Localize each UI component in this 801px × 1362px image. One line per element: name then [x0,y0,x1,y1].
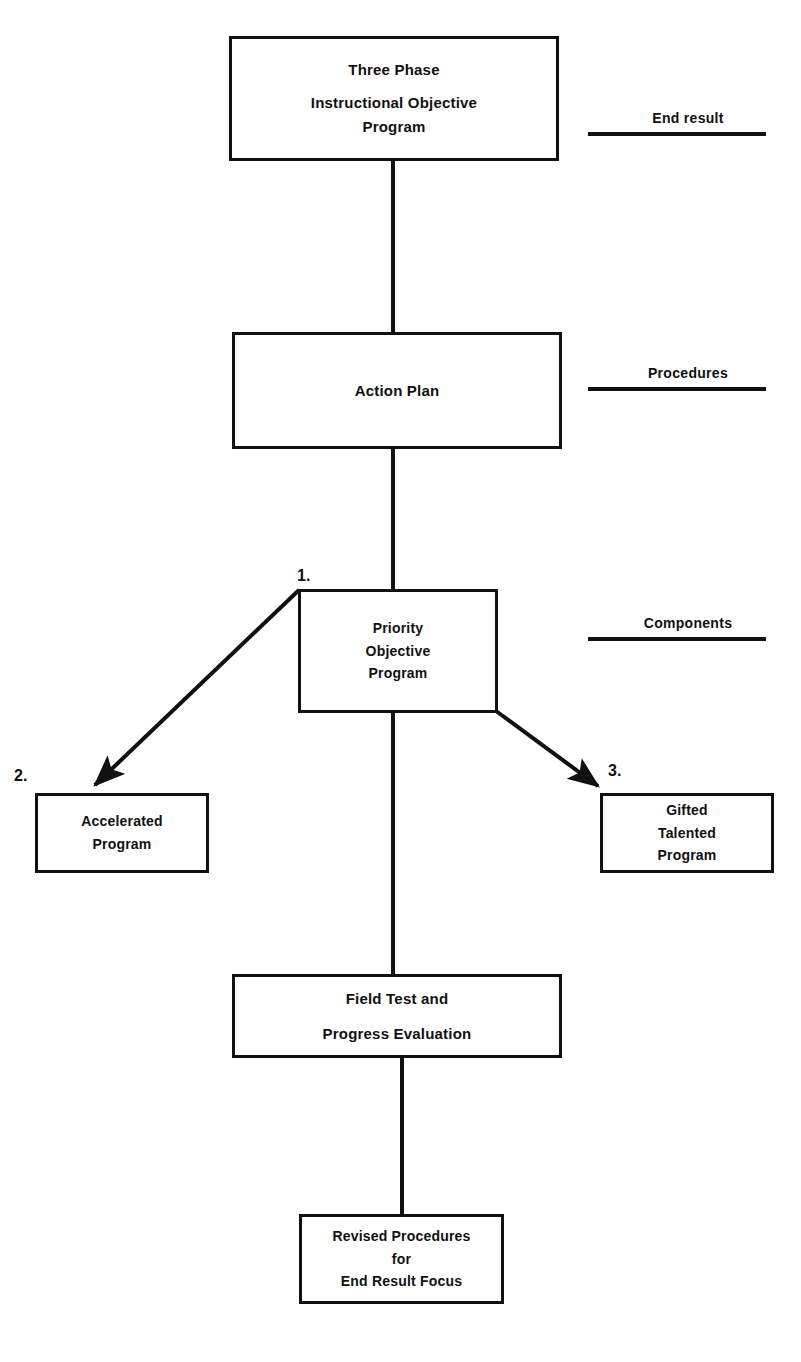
node-gifted-talented-program[interactable]: Gifted Talented Program [600,793,774,873]
node-label-line: Instructional Objective [311,91,477,115]
connector-priority-to-accelerated [95,590,299,785]
node-label-line: Objective [366,640,431,663]
node-three-phase-instructional-objective-program[interactable]: Three Phase Instructional Objective Prog… [229,36,559,161]
connector-priority-to-gifted [496,711,598,786]
diagram-canvas: Three Phase Instructional Objective Prog… [0,0,801,1362]
node-label-line: Program [93,833,152,856]
side-label-procedures: Procedures [588,365,788,381]
node-label-line: Progress Evaluation [323,1022,472,1046]
node-label-line: Talented [658,822,716,845]
step-number-1: 1. [297,568,310,584]
side-label-end-result: End result [588,110,788,126]
node-priority-objective-program[interactable]: Priority Objective Program [298,589,498,713]
node-label-line: End Result Focus [341,1270,462,1292]
step-number-3: 3. [608,763,621,779]
node-label-line: Accelerated [81,810,163,833]
side-label-components: Components [588,615,788,631]
node-label-line: for [392,1248,411,1270]
node-label-line: Gifted [666,799,708,822]
node-label-line: Program [369,662,428,685]
side-label-rule-end-result [588,132,766,136]
step-number-2: 2. [14,768,27,784]
node-label-line: Program [658,844,717,867]
node-label-line: Three Phase [348,58,439,82]
node-label-line: Priority [373,617,424,640]
side-label-rule-procedures [588,387,766,391]
node-field-test-and-progress-evaluation[interactable]: Field Test and Progress Evaluation [232,974,562,1058]
node-label-line: Revised Procedures [332,1225,470,1247]
node-accelerated-program[interactable]: Accelerated Program [35,793,209,873]
node-action-plan[interactable]: Action Plan [232,332,562,449]
node-label-line: Action Plan [355,379,440,403]
node-revised-procedures-for-end-result-focus[interactable]: Revised Procedures for End Result Focus [299,1214,504,1304]
node-label-line: Field Test and [346,987,449,1011]
node-label-line: Program [362,115,425,139]
side-label-rule-components [588,637,766,641]
